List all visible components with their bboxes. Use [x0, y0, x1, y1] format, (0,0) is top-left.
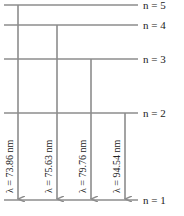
- wavelength-label: λ = 75.63 nm: [43, 140, 54, 193]
- level-label-n4: n = 4: [143, 19, 166, 31]
- energy-level-diagram: n = 5n = 4n = 3n = 2n = 1 λ = 73.86 nmλ …: [0, 0, 184, 216]
- level-label-n1: n = 1: [143, 194, 166, 206]
- level-label-n5: n = 5: [143, 0, 166, 11]
- wavelength-label: λ = 94.54 nm: [111, 140, 122, 193]
- level-label-n2: n = 2: [143, 107, 166, 119]
- transitions: λ = 73.86 nmλ = 75.63 nmλ = 79.76 nmλ = …: [4, 5, 125, 199]
- wavelength-label: λ = 73.86 nm: [4, 140, 15, 193]
- level-label-n3: n = 3: [143, 53, 166, 65]
- wavelength-label: λ = 79.76 nm: [77, 140, 88, 193]
